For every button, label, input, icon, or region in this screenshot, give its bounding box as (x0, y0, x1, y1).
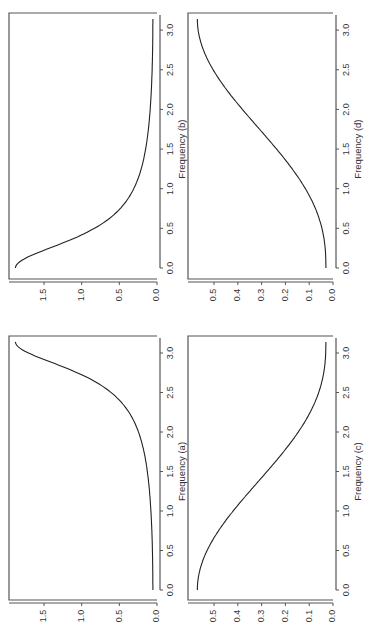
value-tick-label: 0.1 (304, 610, 314, 623)
frequency-tick-label: 1.5 (341, 143, 351, 156)
value-tick-label: 0.0 (327, 289, 337, 302)
plot-frame (188, 336, 333, 600)
frequency-tick-label: 3.0 (165, 347, 175, 360)
frequency-axis-label: Frequency (c) (352, 442, 363, 501)
frequency-tick-label: 0.5 (165, 222, 175, 235)
frequency-tick-label: 0.0 (165, 584, 175, 597)
spectral-density-curve-b (15, 19, 153, 268)
frequency-tick-label: 0.5 (341, 222, 351, 235)
frequency-tick-label: 2.0 (341, 426, 351, 439)
spectral-density-curve-d (197, 19, 326, 268)
frequency-tick-label: 2.5 (165, 63, 175, 76)
value-tick-label: 0.0 (151, 289, 161, 302)
value-tick-label: 1.0 (76, 610, 86, 623)
value-tick-label: 0.0 (327, 610, 337, 623)
value-tick-label: 0.4 (232, 610, 242, 623)
value-tick-label: 0.3 (256, 289, 266, 302)
value-tick-label: 0.1 (304, 289, 314, 302)
frequency-tick-label: 1.0 (341, 182, 351, 195)
frequency-tick-label: 1.0 (165, 182, 175, 195)
plot-frame (188, 13, 333, 279)
frequency-tick-label: 2.0 (165, 426, 175, 439)
frequency-axis-label: Frequency (a) (176, 442, 187, 501)
frequency-tick-label: 1.5 (341, 465, 351, 478)
frequency-tick-label: 1.5 (165, 143, 175, 156)
value-tick-label: 1.5 (38, 610, 48, 623)
value-tick-label: 0.2 (280, 289, 290, 302)
value-tick-label: 0.3 (256, 610, 266, 623)
frequency-tick-label: 1.0 (165, 505, 175, 518)
spectral-density-curve-a (15, 342, 153, 590)
plot-frame (9, 13, 157, 279)
frequency-tick-label: 0.0 (165, 262, 175, 275)
panel-a: 0.00.51.01.52.02.53.0Frequency (a)0.00.5… (9, 336, 187, 622)
frequency-axis-label: Frequency (b) (176, 119, 187, 178)
frequency-tick-label: 2.0 (165, 103, 175, 116)
value-tick-label: 0.4 (232, 289, 242, 302)
value-tick-label: 0.5 (208, 610, 218, 623)
frequency-tick-label: 0.5 (341, 544, 351, 557)
frequency-tick-label: 2.5 (165, 386, 175, 399)
frequency-tick-label: 3.0 (341, 347, 351, 360)
value-tick-label: 0.5 (114, 610, 124, 623)
frequency-tick-label: 0.0 (341, 584, 351, 597)
panel-c: 0.00.51.01.52.02.53.0Frequency (c)0.00.1… (188, 336, 363, 622)
panel-b: 0.00.51.01.52.02.53.0Frequency (b)0.00.5… (9, 13, 187, 301)
value-tick-label: 0.0 (151, 610, 161, 623)
value-tick-label: 1.5 (38, 289, 48, 302)
frequency-tick-label: 2.5 (341, 63, 351, 76)
value-tick-label: 0.5 (114, 289, 124, 302)
spectral-density-curve-c (197, 342, 326, 590)
frequency-tick-label: 2.0 (341, 103, 351, 116)
value-tick-label: 1.0 (76, 289, 86, 302)
frequency-tick-label: 2.5 (341, 386, 351, 399)
figure: 0.00.51.01.52.02.53.0Frequency (a)0.00.5… (0, 0, 376, 627)
frequency-tick-label: 3.0 (165, 24, 175, 37)
frequency-tick-label: 0.5 (165, 544, 175, 557)
panel-d: 0.00.51.01.52.02.53.0Frequency (d)0.00.1… (188, 13, 363, 301)
frequency-tick-label: 3.0 (341, 24, 351, 37)
frequency-tick-label: 1.0 (341, 505, 351, 518)
frequency-axis-label: Frequency (d) (352, 119, 363, 178)
value-tick-label: 0.2 (280, 610, 290, 623)
frequency-tick-label: 0.0 (341, 262, 351, 275)
value-tick-label: 0.5 (208, 289, 218, 302)
frequency-tick-label: 1.5 (165, 465, 175, 478)
